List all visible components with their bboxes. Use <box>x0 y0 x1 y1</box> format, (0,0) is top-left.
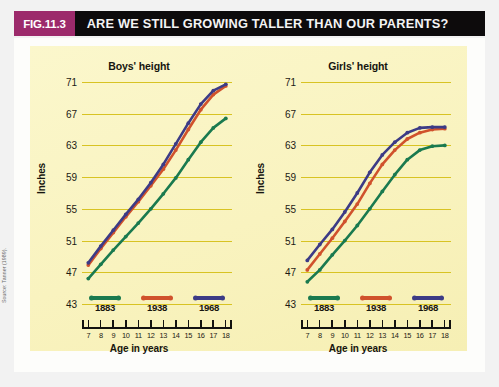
data-point <box>443 144 447 148</box>
data-point <box>174 142 178 146</box>
x-axis-tick <box>112 320 114 328</box>
y-axis-label-girls: Inches <box>255 163 266 194</box>
legend-swatch-icon <box>142 296 172 300</box>
y-tick-label: 47 <box>285 267 296 278</box>
data-point <box>355 191 359 195</box>
y-tick-label: 67 <box>285 108 296 119</box>
data-point <box>211 126 215 130</box>
x-axis-cap <box>449 320 451 329</box>
x-axis-tick <box>100 320 102 328</box>
x-tick-label: 9 <box>111 331 115 340</box>
data-point <box>174 176 178 180</box>
data-point <box>405 131 409 135</box>
data-point <box>124 235 128 239</box>
x-axis-tick <box>431 320 433 328</box>
x-tick-label: 15 <box>403 331 411 340</box>
chart-title-girls: Girls' height <box>249 60 467 72</box>
x-axis-tick <box>188 320 190 328</box>
x-tick-label: 17 <box>209 331 217 340</box>
legend-item-1883[interactable]: 1883 <box>301 296 347 313</box>
data-point <box>368 207 372 211</box>
x-axis-tick <box>212 320 214 328</box>
x-axis-tick <box>357 320 359 328</box>
data-point <box>305 280 309 284</box>
x-tick-labels-girls: 789101112131415161718 <box>301 331 451 342</box>
data-point <box>124 213 128 217</box>
plot-area-boys: 7167635955514743 <box>82 74 232 304</box>
data-point <box>318 268 322 272</box>
legend-item-1883[interactable]: 1883 <box>82 296 128 313</box>
data-point <box>149 207 153 211</box>
x-tick-label: 14 <box>172 331 180 340</box>
y-tick-label: 59 <box>66 172 77 183</box>
x-axis-tick <box>444 320 446 328</box>
legend-item-1938[interactable]: 1938 <box>353 296 399 313</box>
x-axis-tick <box>225 320 227 328</box>
data-point <box>430 125 434 129</box>
data-point <box>418 148 422 152</box>
data-point <box>99 262 103 266</box>
x-axis-tick <box>175 320 177 328</box>
series-layer-boys <box>82 74 232 304</box>
data-point <box>186 128 190 132</box>
x-tick-label: 16 <box>197 331 205 340</box>
chart-panel: Boys' height Inches 7167635955514743 188… <box>30 46 467 351</box>
x-axis-tick <box>344 320 346 328</box>
y-tick-label: 43 <box>66 299 77 310</box>
y-tick-label: 63 <box>285 140 296 151</box>
legend-item-1938[interactable]: 1938 <box>134 296 180 313</box>
x-tick-label: 18 <box>222 331 230 340</box>
x-axis-tick <box>319 320 321 328</box>
data-point <box>330 228 334 232</box>
legend-item-1968[interactable]: 1968 <box>405 296 451 313</box>
data-point <box>149 181 153 185</box>
y-tick-label: 71 <box>285 76 296 87</box>
legend-label: 1883 <box>95 302 115 313</box>
figure-titlebar: FIG.11.3 ARE WE STILL GROWING TALLER THA… <box>14 11 485 36</box>
x-tick-label: 14 <box>391 331 399 340</box>
chart-title-boys: Boys' height <box>30 60 248 72</box>
data-point <box>86 277 90 281</box>
data-point <box>380 153 384 157</box>
data-point <box>199 140 203 144</box>
x-axis-girls <box>301 320 451 329</box>
data-point <box>186 158 190 162</box>
legend-girls: 188319381968 <box>301 296 451 320</box>
figure-root: FIG.11.3 ARE WE STILL GROWING TALLER THA… <box>0 0 499 387</box>
data-point <box>136 197 140 201</box>
data-point <box>199 102 203 106</box>
x-axis-cap <box>301 320 303 329</box>
data-point <box>305 259 309 263</box>
data-point <box>86 261 90 265</box>
x-axis-tick <box>394 320 396 328</box>
data-point <box>318 252 322 256</box>
x-axis-line <box>301 327 451 329</box>
data-point <box>393 173 397 177</box>
x-axis-cap <box>230 320 232 329</box>
y-tick-label: 51 <box>285 235 296 246</box>
x-tick-label: 16 <box>416 331 424 340</box>
data-point <box>305 268 309 272</box>
data-point <box>343 220 347 224</box>
x-tick-label: 12 <box>366 331 374 340</box>
legend-swatch-icon <box>413 296 443 300</box>
figure-number-badge: FIG.11.3 <box>14 11 75 36</box>
x-tick-label: 12 <box>147 331 155 340</box>
legend-item-1968[interactable]: 1968 <box>186 296 232 313</box>
source-note: Source: Tanner (1989). <box>1 239 11 303</box>
x-tick-label: 7 <box>86 331 90 340</box>
data-point <box>418 126 422 130</box>
figure-card: Boys' height Inches 7167635955514743 188… <box>14 38 485 372</box>
data-point <box>111 248 115 252</box>
x-tick-label: 18 <box>441 331 449 340</box>
plot-area-girls: 7167635955514743 <box>301 74 451 304</box>
x-axis-tick <box>307 320 309 328</box>
data-point <box>380 190 384 194</box>
chart-boys-height: Boys' height Inches 7167635955514743 188… <box>30 46 248 351</box>
x-axis-tick <box>407 320 409 328</box>
data-point <box>405 158 409 162</box>
legend-swatch-icon <box>361 296 391 300</box>
data-point <box>161 192 165 196</box>
x-tick-label: 8 <box>99 331 103 340</box>
x-tick-label: 11 <box>354 331 361 340</box>
